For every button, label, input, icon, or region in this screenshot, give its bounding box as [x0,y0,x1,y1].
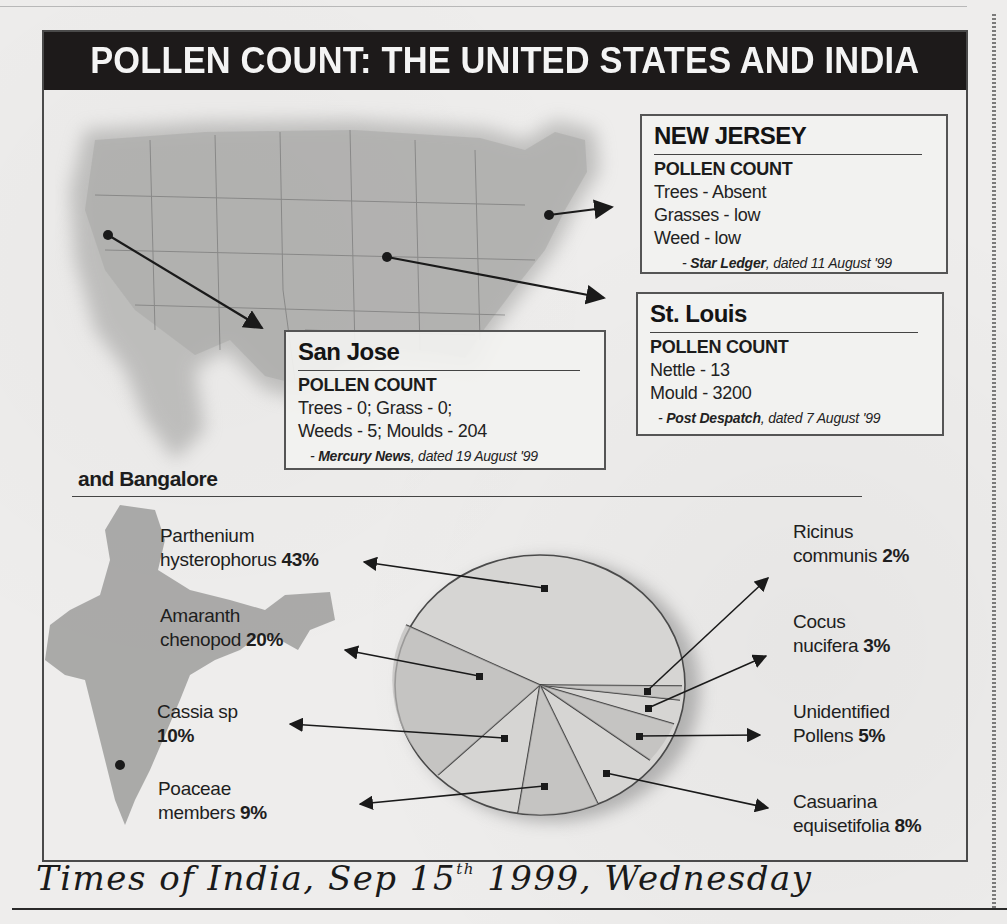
reading-weeds-moulds: Weeds - 5; Moulds - 204 [298,420,604,442]
page-title: POLLEN COUNT: THE UNITED STATES AND INDI… [44,32,966,90]
label-name: Cassia sp [157,700,238,724]
pollen-count-heading: POLLEN COUNT [650,337,942,358]
source-name: Mercury News [318,448,411,464]
label-name: Casuarina [793,790,921,814]
city-name: NEW JERSEY [654,122,946,150]
label-percent: 43% [282,549,319,570]
citation-text: Times of India, Sep 15 [36,858,456,898]
reading-mould: Mould - 3200 [650,382,942,404]
label-poaceae: Poaceae members 9% [158,777,267,825]
reading-nettle: Nettle - 13 [650,359,942,381]
source-date: , dated 11 August '99 [766,255,892,271]
title-text: POLLEN COUNT: THE UNITED STATES AND INDI… [90,40,919,82]
label-cassia: Cassia sp 10% [157,700,238,748]
label-name: chenopod [160,629,241,650]
label-percent: 8% [894,815,921,836]
divider [298,370,580,371]
label-percent: 20% [246,629,283,650]
citation-superscript: th [456,860,475,878]
label-percent: 2% [882,545,909,566]
label-name: nucifera [793,635,858,656]
source-date: , dated 19 August '99 [411,448,538,464]
reading-weed: Weed - low [654,227,946,249]
pollen-count-heading: POLLEN COUNT [298,375,604,396]
divider [654,154,922,155]
label-name: members [158,802,235,823]
label-name: Amaranth [160,604,283,628]
bottom-rule [12,908,1007,910]
city-name: St. Louis [650,300,942,328]
source-credit: - Star Ledger, dated 11 August '99 [682,255,946,271]
pollen-count-heading: POLLEN COUNT [654,159,946,180]
label-ricinus: Ricinus communis 2% [793,520,909,568]
label-percent: 3% [863,635,890,656]
label-name: Cocus [793,610,890,634]
st-louis-card: St. Louis POLLEN COUNT Nettle - 13 Mould… [636,292,944,436]
label-name: Poaceae [158,777,267,801]
perforated-edge [992,14,996,910]
top-rule [0,6,967,7]
source-credit: - Post Despatch, dated 7 August '99 [658,410,942,426]
source-name: Star Ledger [690,255,766,271]
label-name: hysterophorus [160,549,277,570]
label-name: Pollens [793,725,853,746]
handwritten-citation: Times of India, Sep 15th 1999, Wednesday [36,858,813,898]
san-jose-card: San Jose POLLEN COUNT Trees - 0; Grass -… [284,330,606,470]
divider [650,332,918,333]
city-name: San Jose [298,338,604,366]
label-name: Ricinus [793,520,909,544]
label-cocus: Cocus nucifera 3% [793,610,890,658]
bangalore-heading: and Bangalore [78,467,217,491]
label-name: Unidentified [793,700,890,724]
reading-trees-grass: Trees - 0; Grass - 0; [298,397,604,419]
label-percent: 9% [240,802,267,823]
source-date: , dated 7 August '99 [761,410,881,426]
new-jersey-card: NEW JERSEY POLLEN COUNT Trees - Absent G… [640,114,948,274]
label-casuarina: Casuarina equisetifolia 8% [793,790,921,838]
label-name: communis [793,545,877,566]
source-name: Post Despatch [666,410,761,426]
label-parthenium: Parthenium hysterophorus 43% [160,524,319,572]
label-unidentified: Unidentified Pollens 5% [793,700,890,748]
label-amaranth: Amaranth chenopod 20% [160,604,283,652]
label-percent: 5% [858,725,885,746]
citation-text: 1999, Wednesday [475,858,813,898]
reading-trees: Trees - Absent [654,181,946,203]
source-credit: - Mercury News, dated 19 August '99 [310,448,604,464]
reading-grasses: Grasses - low [654,204,946,226]
label-percent: 10% [157,725,194,746]
label-name: equisetifolia [793,815,889,836]
label-name: Parthenium [160,524,319,548]
section-divider [72,496,862,497]
